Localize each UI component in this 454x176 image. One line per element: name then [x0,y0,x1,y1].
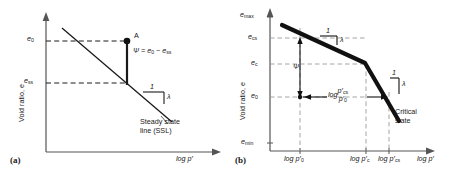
panel-a-tag: (a) [10,155,21,165]
panel-b-tag: (b) [235,155,246,165]
xtick-logpcs-sub: cs [395,157,400,163]
xtick-label-logpc: log p′c [350,155,370,164]
xaxis-label-a: log p′ [176,155,193,163]
xtick-logpc-sub: c [367,157,370,163]
slope-run-label-a: 1 [150,83,154,91]
panel-a: e0 ess A Ψ = e0 − ess 1 λ Steady state l… [0,0,227,176]
ytick-ecs-sub: cs [252,35,257,41]
xtick-logp0-sub: 0 [301,157,304,163]
state-parameter-equation-a: Ψ = e0 − ess [133,47,171,56]
xaxis-label-b: log p′ [417,155,434,163]
ytick-emin-sub: min [245,140,253,146]
psi-sub-ss: ss [166,49,171,55]
slope-rise-text-a: λ [167,92,171,101]
psi-minus-e: − e [154,46,166,55]
xaxis-label-b-prime: ′ [433,154,434,163]
ytick-ess-sub: ss [28,79,33,85]
ssl-line [62,28,172,122]
slope-run-label-b-lower: 1 [392,69,396,77]
xaxis-label-a-prime: ′ [192,154,193,163]
ytick-label-emin: emin [241,138,253,147]
state-parameter-label-b: Ψ [293,63,299,71]
ytick-ec-sub: c [255,61,258,67]
figure-container: e0 ess A Ψ = e0 − ess 1 λ Steady state l… [0,0,454,176]
xtick-label-logpcs: log p′cs [378,155,400,164]
reference-lines-horizontal-b [270,38,366,97]
slope-run-label-b-upper: 1 [326,27,330,35]
ytick-label-e0: e0 [251,92,258,101]
yaxis-label-a: Void ratio, e [18,84,26,122]
ssl-caption: Steady state line (SSL) [140,117,180,135]
xaxis-label-b-base: log p [417,154,433,163]
ytick-e0-sub: 0 [31,37,34,43]
ytick-e0-sub-b: 0 [255,94,258,100]
xaxis-label-a-base: log p [176,154,192,163]
ytick-label-emax: emax [240,11,254,20]
log-ratio-prefix: log [328,90,338,99]
log-ratio-annotation: logp′csp′0 [328,87,348,104]
xtick-logp0-base: log p [284,154,300,163]
ytick-label-ec: ec [251,59,258,68]
xtick-logpcs-base: log p [378,154,394,163]
slope-rise-label-b-lower: λ [402,80,406,88]
critical-state-caption: Critical state [395,107,417,125]
panel-b: emax ecs ec e0 emin Ψ logp′csp′0 1 λ 1 λ… [227,0,454,176]
point-a-label: A [134,32,139,40]
slope-run-text-a: 1 [150,82,154,91]
point-a-label-text: A [134,31,139,40]
psi-equals-e: Ψ = e [133,46,151,55]
xtick-logpc-base: log p [350,154,366,163]
ytick-emax-sub: max [244,13,254,19]
point-a-marker [124,38,131,45]
yaxis-label-b: Void ratio, e [239,82,247,120]
log-ratio-denominator: p′0 [338,95,349,103]
log-ratio-den-sub: 0 [344,97,347,103]
slope-triangle-b-lower [390,78,399,94]
xtick-label-logp0: log p′0 [284,155,304,164]
panel-a-graphic [0,0,227,176]
ytick-label-ecs: ecs [248,33,257,42]
slope-rise-label-a: λ [167,93,171,101]
ytick-label-e0: e0 [27,35,34,44]
slope-triangle-a [143,92,164,104]
log-ratio-fraction: p′csp′0 [338,87,349,104]
reference-lines-a [46,41,127,83]
slope-rise-label-b-upper: λ [340,36,344,44]
